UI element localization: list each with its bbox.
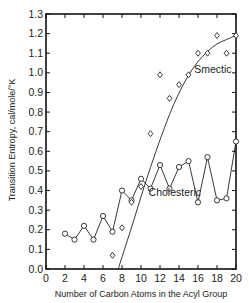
smectic-point	[205, 50, 210, 56]
cholesteric-point	[138, 176, 143, 181]
x-tick-label: 16	[192, 272, 204, 284]
y-tick-label: 0.7	[28, 125, 43, 137]
smectic-point	[120, 225, 125, 231]
smectic-point	[110, 252, 115, 258]
smectic-point	[196, 50, 201, 56]
smectic-point	[148, 131, 153, 137]
cholesteric-point	[233, 139, 238, 144]
cholesteric-point	[214, 198, 219, 203]
x-tick-label: 18	[211, 272, 223, 284]
y-tick-label: 0.3	[28, 204, 43, 216]
smectic-point	[158, 72, 163, 78]
cholesteric-point	[157, 162, 162, 167]
y-tick-label: 0.4	[28, 184, 43, 196]
y-tick-label: 0.8	[28, 106, 43, 118]
x-axis-ticks: 02468101214161820	[43, 14, 242, 284]
y-tick-label: 0.1	[28, 243, 43, 255]
x-tick-label: 12	[154, 272, 166, 284]
smectic-point	[177, 82, 182, 88]
x-tick-label: 14	[173, 272, 185, 284]
cholesteric-point	[100, 213, 105, 218]
cholesteric-point	[62, 231, 67, 236]
y-tick-label: 1.3	[28, 8, 43, 20]
y-tick-label: 0.6	[28, 145, 43, 157]
cholesteric-point	[176, 164, 181, 169]
smectic-label: Smectic	[194, 63, 231, 75]
y-tick-label: 0.9	[28, 86, 43, 98]
y-axis-ticks: 0.00.10.20.30.40.50.60.70.80.91.01.11.21…	[28, 8, 236, 275]
y-tick-label: 1.1	[28, 47, 43, 59]
cholesteric-point	[186, 159, 191, 164]
x-tick-label: 10	[135, 272, 147, 284]
y-tick-label: 1.0	[28, 66, 43, 78]
x-tick-label: 20	[230, 272, 242, 284]
cholesteric-point	[110, 229, 115, 234]
cholesteric-point	[195, 200, 200, 205]
entropy-chart: 0.00.10.20.30.40.50.60.70.80.91.01.11.21…	[0, 0, 249, 303]
x-tick-label: 6	[100, 272, 106, 284]
cholesteric-point	[224, 196, 229, 201]
smectic-point	[215, 33, 220, 39]
smectic-point	[224, 50, 229, 56]
smectic-point	[167, 95, 172, 101]
x-tick-label: 2	[62, 272, 68, 284]
x-tick-label: 0	[43, 272, 49, 284]
cholesteric-point	[119, 188, 124, 193]
cholesteric-label: Cholesteric	[149, 186, 202, 198]
cholesteric-point	[81, 223, 86, 228]
y-tick-label: 0.0	[28, 263, 43, 275]
y-axis-title: Transition Entropy, cal/mole/°K	[7, 79, 17, 202]
y-tick-label: 1.2	[28, 27, 43, 39]
x-axis-title: Number of Carbon Atoms in the Acyl Group	[55, 289, 228, 299]
y-tick-label: 0.5	[28, 164, 43, 176]
x-tick-label: 4	[81, 272, 87, 284]
y-tick-label: 0.2	[28, 223, 43, 235]
cholesteric-point	[205, 155, 210, 160]
cholesteric-point	[91, 237, 96, 242]
smectic-point	[139, 184, 144, 190]
cholesteric-point	[72, 237, 77, 242]
x-tick-label: 8	[119, 272, 125, 284]
